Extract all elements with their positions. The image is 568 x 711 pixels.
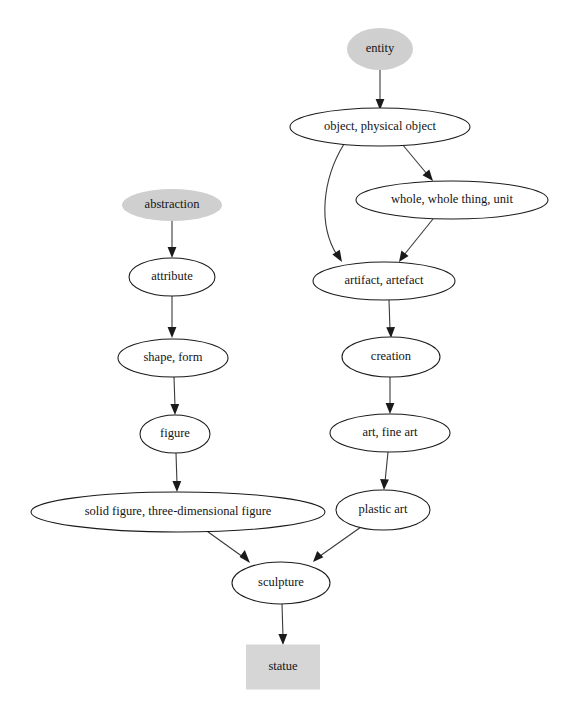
- node-shape-form[interactable]: shape, form: [118, 339, 228, 377]
- node-solid-figure[interactable]: solid figure, three-dimensional figure: [31, 492, 325, 532]
- node-entity-label: entity: [366, 41, 395, 55]
- edge-art-to-plastic-art: [380, 452, 389, 490]
- node-entity[interactable]: entity: [347, 28, 413, 70]
- edge-object-to-whole: [402, 144, 433, 181]
- node-whole[interactable]: whole, whole thing, unit: [356, 181, 548, 219]
- node-attribute-label: attribute: [151, 269, 193, 283]
- node-figure-label: figure: [160, 426, 190, 440]
- node-statue-label: statue: [268, 659, 298, 673]
- node-attribute[interactable]: attribute: [129, 258, 215, 296]
- edge-shape-form-to-figure: [170, 377, 179, 415]
- node-plastic-art[interactable]: plastic art: [336, 490, 430, 530]
- node-plastic-art-label: plastic art: [359, 502, 408, 516]
- node-layer: entity object, physical object whole, wh…: [31, 28, 548, 690]
- node-creation-label: creation: [371, 349, 412, 363]
- edge-solid-figure-to-sculpture: [204, 529, 250, 563]
- node-artifact-label: artifact, artefact: [344, 273, 424, 287]
- node-shape-form-label: shape, form: [143, 350, 202, 364]
- edge-artifact-to-creation: [386, 300, 395, 338]
- node-creation[interactable]: creation: [342, 337, 440, 377]
- edge-object-to-artifact: [325, 144, 344, 262]
- node-whole-label: whole, whole thing, unit: [391, 192, 513, 206]
- node-object[interactable]: object, physical object: [290, 108, 470, 146]
- node-artifact[interactable]: artifact, artefact: [313, 262, 455, 300]
- hypernym-graph: entity object, physical object whole, wh…: [0, 0, 568, 711]
- edge-sculpture-to-statue: [278, 604, 287, 645]
- node-sculpture[interactable]: sculpture: [232, 562, 330, 604]
- node-figure[interactable]: figure: [140, 415, 210, 453]
- diagram-canvas: entity object, physical object whole, wh…: [0, 0, 568, 711]
- node-abstraction-label: abstraction: [145, 197, 201, 211]
- node-art-label: art, fine art: [362, 425, 418, 439]
- node-statue[interactable]: statue: [246, 645, 320, 690]
- edge-creation-to-art: [386, 377, 395, 414]
- node-solid-figure-label: solid figure, three-dimensional figure: [85, 504, 272, 518]
- edge-entity-to-object: [376, 70, 385, 110]
- edge-attribute-to-shape-form: [168, 296, 177, 338]
- node-object-label: object, physical object: [324, 119, 437, 133]
- node-sculpture-label: sculpture: [258, 575, 304, 589]
- node-abstraction[interactable]: abstraction: [122, 189, 222, 221]
- edge-abstraction-to-attribute: [168, 221, 177, 258]
- edge-figure-to-solid-figure: [172, 453, 181, 492]
- edge-whole-to-artifact: [399, 219, 433, 262]
- node-art[interactable]: art, fine art: [330, 414, 450, 452]
- edge-plastic-art-to-sculpture: [313, 527, 361, 562]
